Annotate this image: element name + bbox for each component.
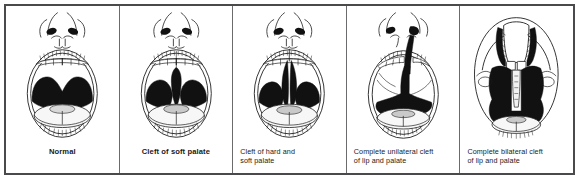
tongue xyxy=(34,104,90,127)
caption-line: Complete bilateral cleft xyxy=(467,147,568,156)
nose-outline xyxy=(40,13,85,48)
nose-outline xyxy=(153,13,198,48)
panel-cleft-soft-palate[interactable]: Cleft of soft palate xyxy=(120,6,234,173)
upper-teeth xyxy=(378,57,430,69)
caption-line: Cleft of hard and xyxy=(240,147,341,156)
upper-teeth xyxy=(36,58,89,66)
nose-outline xyxy=(267,13,312,48)
illustration-cleft-soft-palate xyxy=(120,6,233,147)
caption-normal: Normal xyxy=(6,147,119,173)
caption-line: of lip and palate xyxy=(354,156,455,165)
tongue xyxy=(261,104,317,127)
caption-line: Normal xyxy=(11,147,114,156)
panel-cleft-hard-soft-palate[interactable]: Cleft of hard and soft palate xyxy=(233,6,347,173)
cleft-opening-left-edge xyxy=(282,60,289,109)
caption-complete-unilateral-cleft: Complete unilateral cleft of lip and pal… xyxy=(347,147,460,173)
vomer-ridge xyxy=(513,70,521,107)
caption-complete-bilateral-cleft: Complete bilateral cleft of lip and pala… xyxy=(460,147,573,173)
caption-line: of lip and palate xyxy=(467,156,568,165)
illustration-normal xyxy=(6,6,119,147)
nose-outline xyxy=(379,13,428,47)
illustration-complete-bilateral-cleft xyxy=(460,6,573,147)
caption-cleft-hard-soft-palate: Cleft of hard and soft palate xyxy=(233,147,346,173)
illustration-cleft-hard-soft-palate xyxy=(233,6,346,147)
premaxilla-segment xyxy=(504,22,529,63)
nostril-right-deformed xyxy=(409,26,419,35)
cleft-opening-right-edge xyxy=(290,60,297,109)
caption-line: Cleft of soft palate xyxy=(125,147,228,156)
cleft-opening xyxy=(171,67,181,107)
panel-complete-bilateral-cleft[interactable]: Complete bilateral cleft of lip and pala… xyxy=(460,6,573,173)
tongue xyxy=(492,116,541,134)
figure-frame: Normal xyxy=(4,4,575,175)
panel-normal[interactable]: Normal xyxy=(6,6,120,173)
illustration-complete-unilateral-cleft xyxy=(347,6,460,147)
cleft-palate-figure: Normal xyxy=(0,0,583,191)
caption-cleft-soft-palate: Cleft of soft palate xyxy=(120,147,233,173)
caption-line: soft palate xyxy=(240,156,341,165)
caption-line: Complete unilateral cleft xyxy=(354,147,455,156)
tongue xyxy=(148,104,204,127)
panel-complete-unilateral-cleft[interactable]: Complete unilateral cleft of lip and pal… xyxy=(347,6,461,173)
